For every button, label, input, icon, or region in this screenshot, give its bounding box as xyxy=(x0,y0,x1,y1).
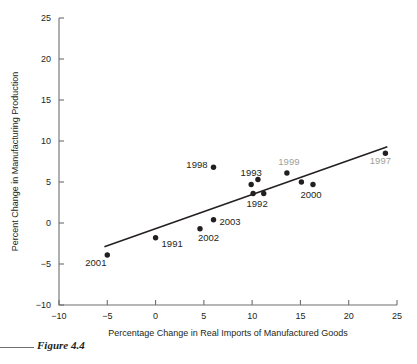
figure-container: −10−50510152025 −10−50510152025 20011991… xyxy=(0,0,417,364)
axis-titles-group: Percentage Change in Real Imports of Man… xyxy=(10,72,348,338)
x-tick-label: 20 xyxy=(344,311,354,321)
y-tick-label: −5 xyxy=(41,259,51,269)
data-point xyxy=(250,191,255,196)
x-tick-label: 25 xyxy=(392,311,402,321)
x-axis-ticks: −10−50510152025 xyxy=(51,300,402,321)
data-point xyxy=(211,165,216,170)
data-point-label: 1992 xyxy=(247,198,268,209)
data-point-label: 2000 xyxy=(300,189,321,200)
data-point xyxy=(153,235,158,240)
caption-rule xyxy=(0,347,34,348)
data-point-label: 1998 xyxy=(186,159,207,170)
x-tick-label: 5 xyxy=(201,311,206,321)
data-point-label: 1991 xyxy=(162,238,183,249)
trendline-group xyxy=(104,147,387,247)
x-tick-label: −5 xyxy=(102,311,112,321)
x-tick-label: 10 xyxy=(247,311,257,321)
y-tick-label: 25 xyxy=(41,13,51,23)
data-point-label: 2002 xyxy=(198,232,219,243)
y-tick-label: 20 xyxy=(41,54,51,64)
data-point xyxy=(310,182,315,187)
trend-line xyxy=(104,147,387,247)
y-tick-label: 5 xyxy=(46,177,51,187)
y-axis-title: Percent Change in Manufacturing Producti… xyxy=(10,72,20,252)
data-point xyxy=(299,179,304,184)
point-labels-group: 2001199120022003199819931992199920001997 xyxy=(85,155,391,268)
y-tick-label: −10 xyxy=(36,300,51,310)
data-point-label: 1993 xyxy=(241,167,262,178)
x-tick-label: −10 xyxy=(51,311,66,321)
figure-caption: Figure 4.4 xyxy=(37,339,85,351)
x-tick-label: 15 xyxy=(295,311,305,321)
x-axis-title: Percentage Change in Real Imports of Man… xyxy=(108,328,348,338)
data-point-label: 2003 xyxy=(220,216,241,227)
data-point xyxy=(248,182,253,187)
data-point-label: 2001 xyxy=(85,257,106,268)
data-point xyxy=(197,226,202,231)
x-tick-label: 0 xyxy=(153,311,158,321)
data-point xyxy=(211,217,216,222)
data-point xyxy=(284,170,289,175)
y-axis-ticks: −10−50510152025 xyxy=(36,13,64,310)
y-tick-label: 15 xyxy=(41,95,51,105)
y-tick-label: 0 xyxy=(46,218,51,228)
y-tick-label: 10 xyxy=(41,136,51,146)
data-point xyxy=(261,191,266,196)
data-point-label: 1999 xyxy=(278,156,299,167)
data-point-label: 1997 xyxy=(370,155,391,166)
scatter-plot: −10−50510152025 −10−50510152025 20011991… xyxy=(0,0,417,364)
